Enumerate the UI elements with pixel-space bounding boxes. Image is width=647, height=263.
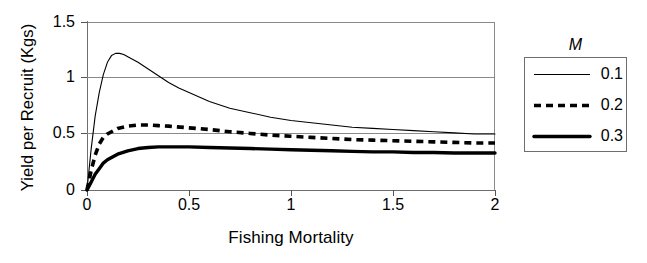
legend-entry-0.1[interactable]: 0.1 — [525, 59, 628, 90]
legend-swatch-thick-solid-line — [532, 121, 592, 152]
legend-swatch-thin-solid-line — [532, 59, 592, 90]
legend-box: 0.1 0.2 0.3 — [524, 57, 627, 152]
series-line-0.3 — [87, 147, 495, 190]
legend-label-0.1: 0.1 — [601, 65, 623, 83]
legend-label-0.2: 0.2 — [601, 96, 623, 114]
series-line-0.2 — [87, 125, 495, 190]
series-line-0.1 — [87, 53, 495, 190]
chart-figure: Yield per Recruit (Kgs) 1.5 1 0.5 0 0 0.… — [0, 0, 647, 263]
legend-swatch-bold-dashed-line — [532, 90, 592, 121]
legend-title: M — [524, 36, 627, 54]
legend-label-0.3: 0.3 — [601, 127, 623, 145]
legend-entry-0.2[interactable]: 0.2 — [525, 90, 628, 121]
legend-entry-0.3[interactable]: 0.3 — [525, 121, 628, 152]
